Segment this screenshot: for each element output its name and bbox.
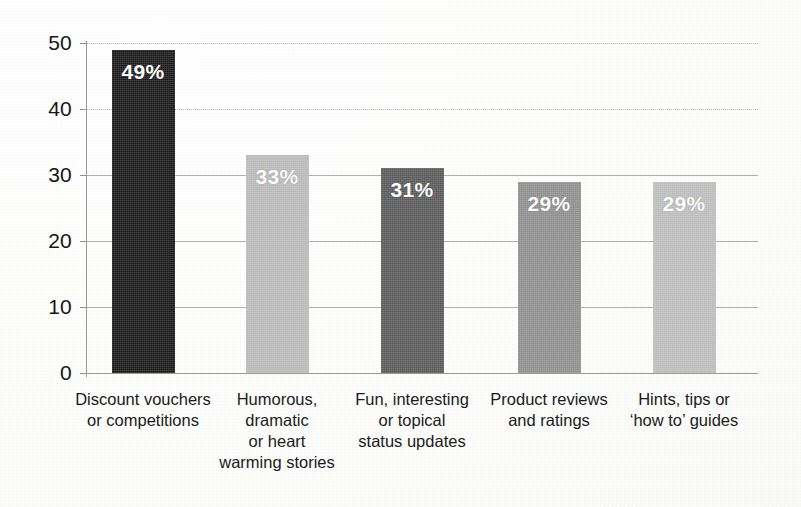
bar-value-label: 33% (246, 165, 309, 189)
x-axis-baseline (86, 373, 758, 374)
bar[interactable]: 49% (112, 50, 175, 373)
y-axis-tick-label: 0 (12, 361, 72, 385)
bar-texture (112, 50, 175, 373)
category-label-line: or heart (202, 431, 352, 452)
bar[interactable]: 31% (381, 168, 444, 373)
category-label-line: warming stories (202, 452, 352, 473)
category-label: Product reviewsand ratings (474, 389, 624, 431)
category-label-line: Discount vouchers (68, 389, 218, 410)
y-axis-tick-labels: 50403020100 (4, 0, 72, 507)
bar-value-label: 31% (381, 178, 444, 202)
y-axis-tick-label: 10 (12, 295, 72, 319)
bar[interactable]: 29% (518, 182, 581, 373)
bar-value-label: 29% (518, 192, 581, 216)
category-label-line: dramatic (202, 410, 352, 431)
category-label-line: Product reviews (474, 389, 624, 410)
y-axis-tick-label: 30 (12, 163, 72, 187)
bar-value-label: 49% (112, 60, 175, 84)
category-label-line: ‘how to’ guides (609, 410, 759, 431)
category-label: Fun, interestingor topicalstatus updates (337, 389, 487, 452)
category-label-line: Fun, interesting (337, 389, 487, 410)
bar[interactable]: 29% (653, 182, 716, 373)
y-axis-tick-label: 40 (12, 97, 72, 121)
bar-value-label: 29% (653, 192, 716, 216)
category-label-line: Humorous, (202, 389, 352, 410)
bar[interactable]: 33% (246, 155, 309, 373)
plot-area: 49%33%31%29%29% (86, 43, 758, 373)
category-label: Hints, tips or‘how to’ guides (609, 389, 759, 431)
category-label: Humorous,dramaticor heartwarming stories (202, 389, 352, 473)
category-label-line: and ratings (474, 410, 624, 431)
category-label-line: status updates (337, 431, 487, 452)
category-label: Discount vouchersor competitions (68, 389, 218, 431)
bar-chart: 50403020100 49%33%31%29%29% Discount vou… (0, 0, 801, 507)
category-label-line: Hints, tips or (609, 389, 759, 410)
y-axis-tick-label: 20 (12, 229, 72, 253)
category-label-line: or topical (337, 410, 487, 431)
category-label-line: or competitions (68, 410, 218, 431)
y-axis-tick-label: 50 (12, 31, 72, 55)
